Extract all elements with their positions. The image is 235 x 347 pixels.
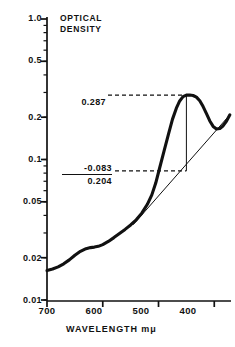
difference-label: 0.204: [62, 176, 112, 186]
optical-density-spectrum-figure: OPTICAL DENSITY 1.0 0.5 0.2 0.1 0.05 0.0…: [0, 0, 235, 347]
chart-title-line1: OPTICAL: [60, 14, 102, 23]
subtraction-annotation: -0.083 0.204: [62, 163, 112, 186]
y-tick-label-7: 0.01: [8, 296, 42, 305]
subtrahend-label: -0.083: [62, 163, 112, 173]
x-axis-title: WAVELENGTH mμ: [66, 325, 157, 334]
y-tick-label-1: 1.0: [8, 14, 42, 23]
x-tick-label-4: 400: [171, 306, 205, 316]
y-tick-label-5: 0.05: [8, 197, 42, 206]
x-tick-label-3: 500: [124, 306, 158, 316]
x-tick-label-2: 600: [77, 306, 111, 316]
baseline-tangent-line: [133, 115, 229, 225]
chart-title-line2: DENSITY: [60, 25, 102, 34]
subtraction-rule: [62, 174, 112, 175]
x-tick-label-1: 700: [30, 306, 64, 316]
peak-value-label: 0.287: [62, 98, 106, 107]
y-tick-label-4: 0.1: [8, 155, 42, 164]
y-tick-label-3: 0.2: [8, 113, 42, 122]
y-tick-label-6: 0.02: [8, 254, 42, 263]
y-tick-label-2: 0.5: [8, 56, 42, 65]
